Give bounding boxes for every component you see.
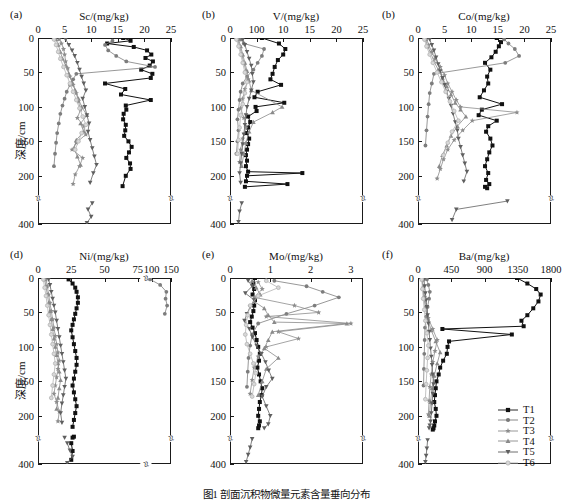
data-point-T1 (149, 76, 153, 80)
data-point-T1 (255, 109, 259, 113)
data-point-T1 (282, 101, 286, 105)
y-tick-label-e-5: 400 (200, 459, 226, 470)
data-point-T5 (245, 50, 250, 54)
data-point-T5 (79, 75, 84, 79)
data-point-T6 (78, 106, 82, 110)
x-tick-label-d-4: 100 (144, 264, 160, 275)
legend-item-t1[interactable]: T1 (497, 404, 535, 415)
data-point-T2 (426, 115, 430, 119)
data-point-T5 (250, 72, 255, 76)
y-tick-label-f-1: 50 (388, 307, 414, 318)
data-point-T1 (245, 148, 249, 152)
data-point-T5 (60, 352, 65, 356)
data-point-T6 (56, 50, 60, 54)
legend-item-t3[interactable]: T3 (497, 425, 535, 436)
data-point-T1 (73, 397, 77, 401)
data-point-T5 (262, 426, 267, 430)
series-layer-c (418, 38, 551, 224)
data-point-T5 (242, 319, 247, 323)
data-point-T2 (424, 144, 428, 148)
data-point-T2 (241, 82, 245, 86)
legend-item-t6[interactable]: T6 (497, 457, 535, 468)
y-tick-label-e-3: 150 (200, 376, 226, 387)
data-point-T4 (276, 356, 281, 360)
data-point-T4 (262, 306, 267, 310)
data-point-T3 (55, 419, 60, 424)
data-point-T2 (507, 42, 511, 46)
panel-tag-a: (a) (10, 8, 22, 20)
data-point-T1 (522, 324, 526, 328)
data-point-T6 (244, 323, 248, 327)
data-point-T5 (72, 54, 77, 58)
data-point-T1 (72, 390, 76, 394)
data-point-T1 (531, 306, 535, 310)
data-point-T6 (41, 277, 45, 281)
data-point-T1 (486, 171, 490, 175)
data-point-T1 (483, 164, 487, 168)
panel-title-b: V/(mg/kg) (236, 10, 356, 22)
legend-label-t4: T4 (523, 436, 535, 447)
data-point-T5 (237, 171, 242, 175)
data-point-T1 (510, 333, 514, 337)
data-point-T6 (81, 115, 85, 119)
data-point-T6 (425, 368, 429, 372)
data-point-T5 (50, 297, 55, 301)
data-point-T1 (489, 55, 493, 59)
data-point-T1 (151, 59, 155, 63)
data-point-T5 (80, 97, 85, 101)
data-point-T6 (457, 119, 461, 123)
y-tick-label-c-5: 400 (388, 219, 414, 230)
data-point-T1 (121, 36, 125, 40)
data-point-T1 (124, 156, 128, 160)
data-point-T1 (281, 53, 285, 57)
x-tick-label-a-3: 15 (113, 24, 124, 35)
data-point-T5 (263, 360, 268, 364)
data-point-T3 (316, 310, 321, 315)
panel-tag-e: (e) (202, 248, 214, 260)
data-point-T1 (73, 312, 77, 316)
y-tick-label-b-3: 150 (200, 136, 226, 147)
legend-item-t2[interactable]: T2 (497, 415, 535, 426)
legend-item-t4[interactable]: T4 (497, 436, 535, 447)
legend-label-t6: T6 (523, 457, 535, 468)
data-point-T6 (45, 304, 49, 308)
data-point-T5 (238, 181, 243, 185)
data-point-T1 (486, 124, 490, 128)
data-point-T1 (495, 36, 499, 40)
y-tick-a-5 (38, 224, 42, 225)
data-point-T6 (71, 90, 75, 94)
data-point-T5 (424, 454, 429, 458)
data-point-T6 (264, 279, 268, 283)
y-tick-f-5 (418, 464, 422, 465)
data-point-T3 (292, 303, 297, 308)
legend-marker-t5-icon (497, 447, 519, 457)
data-point-T1 (127, 150, 131, 154)
y-tick-label-e-4: 200 (200, 410, 226, 421)
data-point-T2 (513, 47, 517, 51)
data-point-T6 (238, 126, 242, 130)
data-point-T1 (485, 75, 489, 79)
data-point-T1 (279, 83, 283, 87)
data-point-T5 (91, 171, 96, 175)
data-point-T1 (445, 352, 449, 356)
x-tick-label-d-3: 75 (133, 264, 144, 275)
data-point-T2 (256, 322, 260, 326)
data-point-T2 (124, 60, 128, 64)
data-point-T5 (247, 97, 252, 101)
y-tick-label-a-5: 400 (8, 219, 34, 230)
data-point-T6 (80, 131, 84, 135)
data-point-T2 (425, 128, 429, 132)
data-point-T3 (256, 279, 261, 284)
data-point-T6 (435, 71, 439, 75)
x-tick-label-e-0: 0 (227, 264, 232, 275)
data-point-T2 (53, 152, 57, 156)
series-line-T5 (87, 203, 92, 223)
data-point-T1 (71, 436, 75, 440)
data-point-T1 (485, 157, 489, 161)
legend-item-t5[interactable]: T5 (497, 446, 535, 457)
data-point-T1 (446, 345, 450, 349)
data-point-T2 (74, 72, 78, 76)
data-point-T1 (122, 134, 126, 138)
data-point-T5 (244, 460, 249, 464)
panel-tag-b: (b) (202, 8, 215, 20)
